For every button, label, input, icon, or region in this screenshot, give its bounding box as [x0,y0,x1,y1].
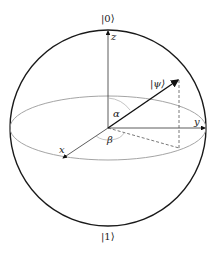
ket0-label: |0⟩ [101,13,115,25]
bloch-sphere-diagram: |0⟩ z |ψ⟩ α β y x |1⟩ [0,0,221,255]
y-label: y [193,116,200,127]
beta-label: β [106,134,113,145]
ket1-label: |1⟩ [101,231,115,243]
x-label: x [59,144,65,155]
x-axis [63,128,108,158]
psi-vector [108,80,178,128]
psi-label: |ψ⟩ [150,78,165,90]
alpha-label: α [113,108,120,119]
z-label: z [110,31,117,42]
